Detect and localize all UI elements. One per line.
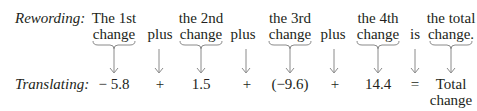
total-line2: change: [425, 92, 477, 108]
equals: =: [407, 76, 423, 92]
value-2: 1.5: [178, 76, 224, 92]
value-1: − 5.8: [91, 76, 137, 92]
value-3: (−9.6): [262, 76, 318, 92]
braces-and-arrows: [0, 0, 477, 111]
plus-1: +: [145, 76, 175, 92]
value-4: 14.4: [355, 76, 401, 92]
plus-3: +: [320, 76, 350, 92]
plus-2: +: [232, 76, 262, 92]
total-line1: Total: [425, 76, 477, 92]
translating-label: Translating:: [15, 76, 89, 92]
